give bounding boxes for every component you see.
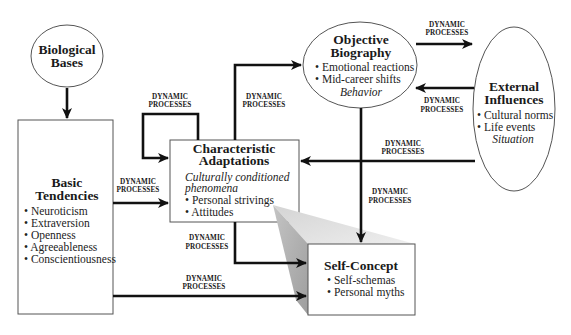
bullet-icon: • [327,274,331,286]
edge-label-biography-to-self-concept-line2: PROCESSES [369,197,412,205]
edge-label-basic-to-characteristic-line1: DYNAMIC [120,178,156,186]
edge-label-characteristic-to-biography-line2: PROCESSES [243,101,286,109]
objective-biography-caption: Behavior [340,86,383,98]
adaptation-label: Attitudes [191,206,234,218]
bullet-icon: • [477,109,481,121]
bullet-icon: • [327,286,331,298]
biography-emotional-reactions: • Emotional reactions [315,61,415,73]
node-biological-bases: Biological Bases [31,25,103,87]
self-concept-self-schemas: • Self-schemas [327,274,396,286]
bullet-icon: • [185,206,189,218]
bullet-icon: • [24,205,28,217]
edge-label-external-to-biography-line2: PROCESSES [421,106,464,114]
edge-label-external-to-characteristic-line2: PROCESSES [382,148,425,156]
trait-label: Extraversion [31,217,90,229]
biography-mid-career-shifts: • Mid-career shifts [315,73,401,85]
node-basic-tendencies: Basic Tendencies • Neuroticism • Extrave… [18,120,116,314]
edge-label-self-loop-line2: PROCESSES [149,101,192,109]
trait-neuroticism: • Neuroticism [24,205,88,217]
influence-label: Life events [484,121,536,133]
bullet-icon: • [185,194,189,206]
bullet-icon: • [24,217,28,229]
edge-label-characteristic-to-self-concept-line2: PROCESSES [186,243,229,251]
edge-label-characteristic-to-biography-line1: DYNAMIC [246,93,282,101]
biological-bases-title-line2: Bases [51,55,83,70]
bullet-icon: • [24,241,28,253]
node-objective-biography: Objective Biography • Emotional reaction… [303,22,417,108]
self-concept-label: Personal myths [334,286,405,299]
edge-label-external-to-characteristic-line1: DYNAMIC [385,140,421,148]
five-factor-personality-diagram: Biological Bases Basic Tendencies • Neur… [0,0,571,335]
self-concept-label: Self-schemas [334,274,396,286]
edge-label-biography-to-external-line2: PROCESSES [426,29,469,37]
trait-extraversion: • Extraversion [24,217,90,229]
biography-label: Mid-career shifts [322,73,401,85]
external-influences-title-line2: Influences [484,92,543,107]
external-influences-caption: Situation [492,133,534,145]
bullet-icon: • [315,73,319,85]
influence-life-events: • Life events [477,121,536,133]
edge-label-characteristic-to-self-concept-line1: DYNAMIC [189,234,225,242]
self-concept-title: Self-Concept [324,258,399,273]
influence-label: Cultural norms [484,109,554,121]
edge-label-biography-to-self-concept-line1: DYNAMIC [372,188,408,196]
biography-label: Emotional reactions [322,61,415,73]
trait-conscientiousness: • Conscientiousness [24,253,116,265]
edge-label-basic-to-characteristic-line2: PROCESSES [117,186,160,194]
edge-label-biography-to-external-line1: DYNAMIC [429,21,465,29]
edge-label-self-loop-line1: DYNAMIC [152,93,188,101]
node-self-concept: Self-Concept • Self-schemas • Personal m… [308,244,415,315]
bullet-icon: • [315,61,319,73]
edge-label-basic-to-self-concept-line1: DYNAMIC [186,275,222,283]
self-concept-personal-myths: • Personal myths [327,286,405,299]
objective-biography-title-line2: Biography [331,45,392,60]
trait-label: Neuroticism [31,205,88,217]
bullet-icon: • [24,229,28,241]
adaptation-attitudes: • Attitudes [185,206,234,218]
node-external-influences: External Influences • Cultural norms • L… [473,27,555,191]
trait-label: Conscientiousness [31,253,116,265]
influence-cultural-norms: • Cultural norms [477,109,554,121]
bullet-icon: • [477,121,481,133]
edge-label-basic-to-self-concept-line2: PROCESSES [183,283,226,291]
edge-label-external-to-biography-line1: DYNAMIC [424,97,460,105]
basic-tendencies-title-line2: Tendencies [35,188,98,203]
bullet-icon: • [24,253,28,265]
characteristic-adaptations-title-line2: Adaptations [199,153,270,168]
